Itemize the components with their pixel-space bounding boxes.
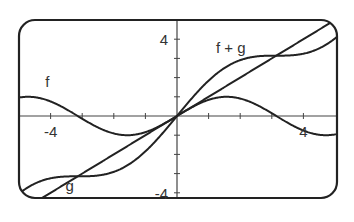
x-tick-label: 4 bbox=[299, 123, 307, 140]
series-label: f + g bbox=[216, 39, 246, 56]
function-plot: -444-4fgf + g bbox=[0, 0, 354, 222]
x-tick-label: -4 bbox=[44, 123, 57, 140]
series-label: g bbox=[65, 177, 73, 194]
series-label: f bbox=[45, 73, 50, 90]
y-tick-label: 4 bbox=[160, 31, 168, 48]
y-tick-label: -4 bbox=[155, 185, 168, 202]
